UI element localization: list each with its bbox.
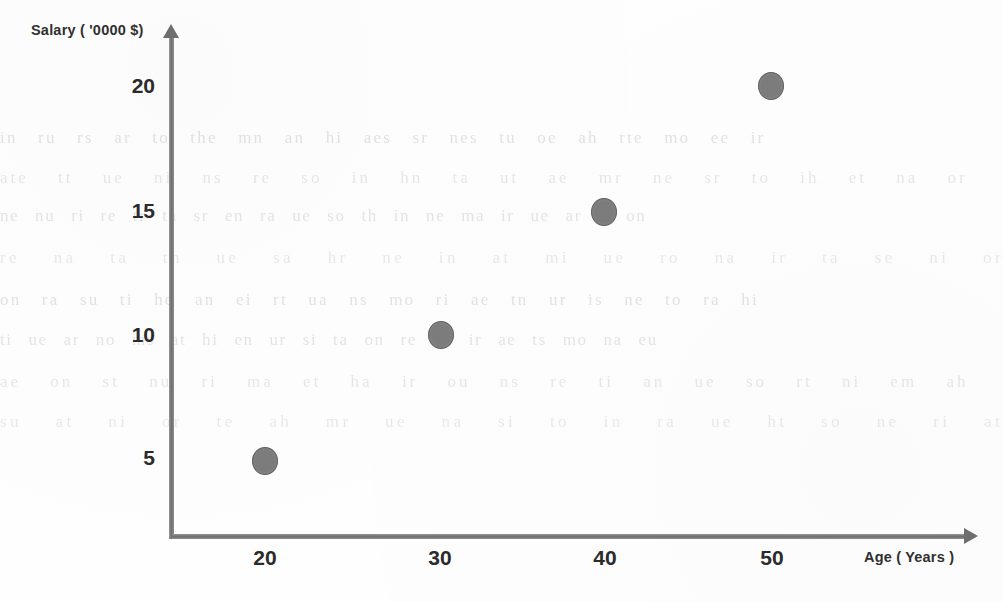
x-axis-arrow-icon xyxy=(964,528,978,544)
y-tick-label: 20 xyxy=(97,74,155,98)
y-axis-line xyxy=(169,36,174,539)
x-tick-label: 20 xyxy=(235,546,295,570)
y-axis-arrow-icon xyxy=(163,24,179,38)
x-axis-line xyxy=(172,534,972,539)
x-tick-label: 40 xyxy=(575,546,635,570)
data-point xyxy=(758,72,784,100)
y-tick-label: 15 xyxy=(97,199,155,223)
x-axis-title: Age ( Years ) xyxy=(864,549,954,565)
y-tick-label: 10 xyxy=(97,323,155,347)
x-tick-label: 50 xyxy=(742,546,802,570)
scatter-chart-page: in ru rs ar to the mn an hi aes sr nes t… xyxy=(0,0,1003,602)
y-axis-title: Salary ( '0000 $) xyxy=(31,22,143,38)
y-tick-label: 5 xyxy=(97,446,155,470)
data-point xyxy=(252,447,278,475)
chart-canvas: Salary ( '0000 $) Age ( Years ) 20 15 10… xyxy=(0,0,1003,602)
x-tick-label: 30 xyxy=(410,546,470,570)
data-point xyxy=(428,321,454,349)
data-point xyxy=(591,198,617,226)
